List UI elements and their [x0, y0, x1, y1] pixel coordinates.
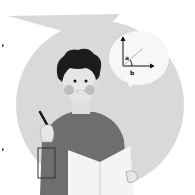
- edge-mark-top: [2, 44, 4, 47]
- cheek-right: [85, 85, 95, 95]
- hand-left: [40, 125, 54, 142]
- cheek-left: [64, 85, 74, 95]
- eye-left: [74, 80, 77, 83]
- eye-right: [85, 80, 88, 83]
- edge-mark-bottom: [2, 148, 4, 151]
- label-b: b: [130, 69, 135, 76]
- illustration: a b: [0, 0, 195, 195]
- thought-bubble-body: [109, 31, 169, 85]
- label-a: a: [125, 54, 129, 61]
